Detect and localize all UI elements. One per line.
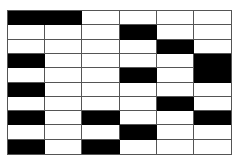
grid-cell — [8, 25, 45, 39]
filled-cell — [194, 111, 231, 125]
grid-cell — [194, 97, 231, 111]
grid-cell — [82, 11, 119, 25]
grid-cell — [120, 54, 157, 68]
grid-cell — [157, 68, 194, 82]
grid-cell — [120, 111, 157, 125]
grid-cell — [8, 40, 45, 54]
filled-cell — [82, 140, 119, 154]
grid-cell — [120, 140, 157, 154]
filled-cell — [8, 83, 45, 97]
grid-cell — [157, 111, 194, 125]
filled-cell — [194, 54, 231, 83]
grid-cell — [45, 140, 82, 154]
filled-cell — [8, 111, 45, 125]
grid-cell — [82, 40, 119, 54]
grid-cell — [8, 97, 45, 111]
grid-cell — [194, 25, 231, 39]
grid-cell — [8, 125, 45, 139]
grid-cell — [194, 125, 231, 139]
grid-cell — [45, 97, 82, 111]
grid-cell — [194, 140, 231, 154]
grid-cell — [194, 40, 231, 54]
grid-cell — [157, 140, 194, 154]
grid-cell — [45, 54, 82, 68]
grid-cell — [82, 68, 119, 82]
grid-cell — [82, 125, 119, 139]
grid-cell — [45, 111, 82, 125]
grid-cell — [120, 83, 157, 97]
grid-cell — [120, 40, 157, 54]
grid-cell — [120, 97, 157, 111]
grid-cell — [194, 83, 231, 97]
filled-cell — [157, 97, 194, 111]
filled-cell — [157, 40, 194, 54]
filled-cell — [120, 125, 157, 139]
grid-cell — [157, 54, 194, 68]
grid-cell — [45, 40, 82, 54]
grid-cell — [82, 83, 119, 97]
filled-cell — [120, 68, 157, 82]
grid-cell — [120, 11, 157, 25]
grid-cell — [157, 83, 194, 97]
grid-cell — [194, 11, 231, 25]
grid-cell — [45, 125, 82, 139]
grid-cell — [45, 25, 82, 39]
grid-cell — [45, 68, 82, 82]
grid-cell — [157, 125, 194, 139]
grid-cell — [157, 25, 194, 39]
pattern-grid — [7, 10, 232, 155]
filled-cell — [8, 54, 45, 68]
filled-cell — [82, 111, 119, 125]
grid-cell — [82, 54, 119, 68]
grid-cell — [82, 97, 119, 111]
filled-cell — [8, 140, 45, 154]
grid-cell — [8, 68, 45, 82]
filled-cell — [120, 25, 157, 39]
grid-cell — [45, 83, 82, 97]
grid-cell — [82, 25, 119, 39]
filled-cell — [8, 11, 82, 25]
grid-cell — [157, 11, 194, 25]
